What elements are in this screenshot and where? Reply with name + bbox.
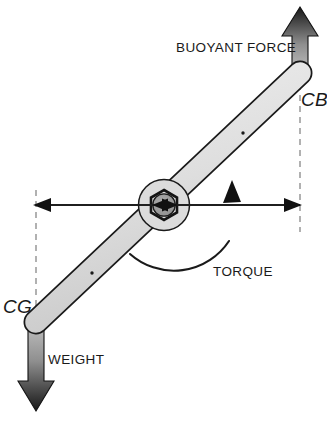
- buoyancy-torque-diagram: BUOYANT FORCE CB CG WEIGHT TORQUE: [0, 0, 327, 421]
- buoyant-force-label: BUOYANT FORCE: [176, 40, 296, 55]
- torque-arrowhead: [223, 180, 241, 203]
- arrowhead-left: [33, 198, 51, 212]
- beam-marker-dot-upper: [241, 131, 244, 134]
- beam-marker-dot-lower: [90, 271, 93, 274]
- cg-label: CG: [3, 296, 32, 317]
- separation-double-arrow: [33, 198, 302, 212]
- cb-label: CB: [301, 89, 327, 110]
- diagram-canvas: BUOYANT FORCE CB CG WEIGHT TORQUE: [0, 0, 327, 421]
- weight-label: WEIGHT: [48, 352, 104, 367]
- torque-label: TORQUE: [213, 264, 273, 279]
